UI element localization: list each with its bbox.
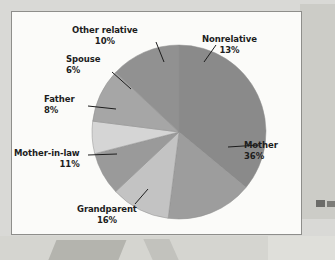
pie-chart-svg — [12, 12, 303, 236]
pie-label-father-value: 8% — [44, 105, 75, 116]
pie-label-nonrelative-value: 13% — [202, 45, 257, 56]
pie-slice-group — [92, 45, 266, 219]
page-artifact-marker-primary — [316, 200, 325, 207]
pie-label-grandparent: Grandparent 16% — [77, 204, 137, 225]
pie-label-mother-in-law-value: 11% — [14, 159, 80, 170]
pie-label-spouse-value: 6% — [66, 65, 100, 76]
page-artifact-marker-secondary — [327, 201, 335, 207]
page-shadow-right — [300, 4, 335, 219]
pie-label-mother-in-law: Mother-in-law 11% — [14, 148, 80, 169]
page-artifact-diagonal-left — [48, 240, 127, 260]
pie-label-nonrelative-name: Nonrelative — [202, 34, 257, 44]
pie-label-grandparent-name: Grandparent — [77, 204, 137, 214]
pie-label-spouse: Spouse 6% — [66, 54, 100, 75]
pie-chart: Other relative 10% Nonrelative 13% Spous… — [12, 12, 301, 234]
chart-panel: Other relative 10% Nonrelative 13% Spous… — [11, 11, 302, 235]
pie-label-mother-value: 36% — [244, 151, 278, 162]
pie-label-mother-in-law-name: Mother-in-law — [14, 148, 80, 158]
scanned-page-background: Other relative 10% Nonrelative 13% Spous… — [0, 0, 335, 260]
pie-label-spouse-name: Spouse — [66, 54, 100, 64]
pie-label-father-name: Father — [44, 94, 75, 104]
pie-label-grandparent-value: 16% — [77, 215, 137, 226]
pie-label-other-relative: Other relative 10% — [72, 25, 138, 46]
pie-label-mother: Mother 36% — [244, 140, 278, 161]
pie-label-mother-name: Mother — [244, 140, 278, 150]
pie-label-other-relative-name: Other relative — [72, 25, 138, 35]
pie-label-other-relative-value: 10% — [72, 36, 138, 47]
page-artifact-diagonal-right — [268, 236, 335, 260]
pie-label-father: Father 8% — [44, 94, 75, 115]
pie-label-nonrelative: Nonrelative 13% — [202, 34, 257, 55]
